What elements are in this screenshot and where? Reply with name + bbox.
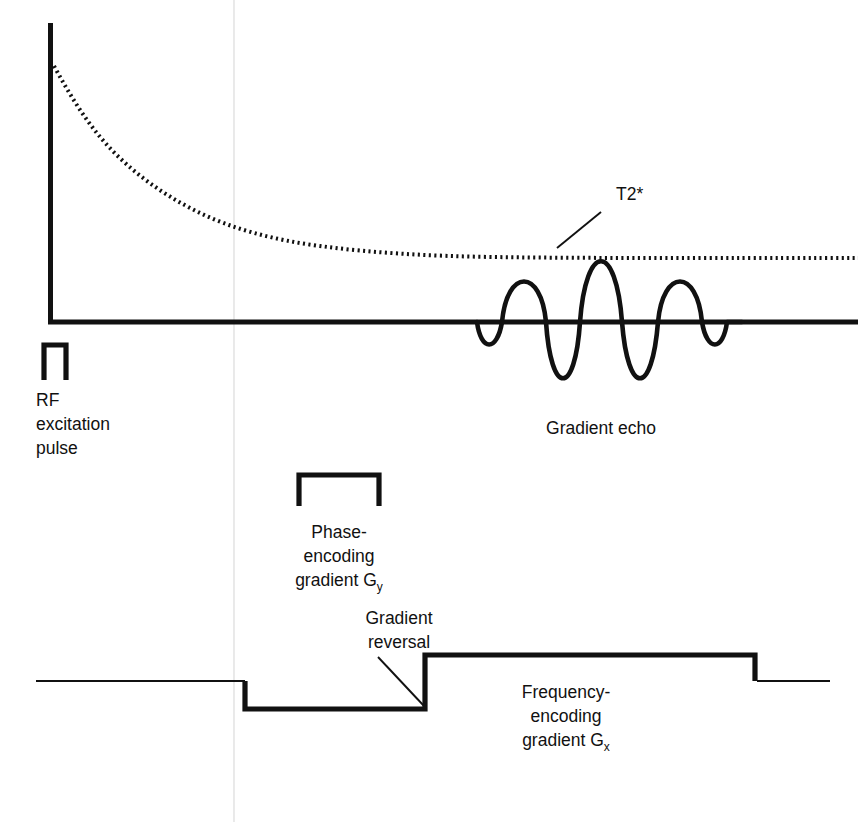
pulse-sequence-diagram: T2* RF excitation pulse Gradient echo Ph… xyxy=(0,0,862,822)
t2-star-label: T2* xyxy=(616,184,643,204)
phase-label-line-3-subscript: y xyxy=(377,580,383,594)
diagram-background xyxy=(0,0,862,822)
phase-label-line-1: Phase- xyxy=(311,522,367,542)
phase-label-line-2: encoding xyxy=(303,546,374,566)
rf-label-line-1: RF xyxy=(36,390,59,410)
gradient-reversal-label-line-1: Gradient xyxy=(365,608,432,628)
freq-label-line-3-subscript: x xyxy=(604,740,610,754)
gradient-reversal-label-line-2: reversal xyxy=(368,632,430,652)
phase-label-line-3-prefix: gradient G xyxy=(295,570,377,590)
rf-label-line-2: excitation xyxy=(36,414,110,434)
freq-label-line-1: Frequency- xyxy=(522,682,611,702)
figure-root: T2* RF excitation pulse Gradient echo Ph… xyxy=(0,0,862,822)
frequency-encoding-gradient-label: Frequency- encoding gradient Gx xyxy=(522,682,611,754)
rf-label-line-3: pulse xyxy=(36,438,78,458)
gradient-echo-label: Gradient echo xyxy=(546,418,656,438)
freq-label-line-3-prefix: gradient G xyxy=(522,730,604,750)
freq-label-line-2: encoding xyxy=(530,706,601,726)
